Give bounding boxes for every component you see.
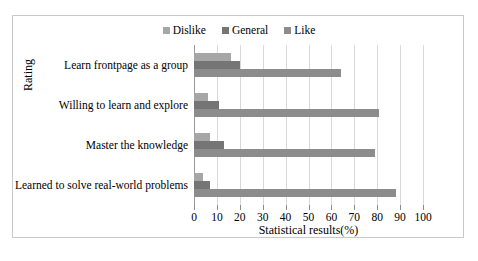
legend-item-dislike[interactable]: Dislike: [163, 25, 206, 37]
x-tick-label: 90: [394, 210, 406, 224]
x-tick-label: 100: [414, 210, 431, 224]
bar-dislike[interactable]: [194, 93, 208, 101]
gridline: [423, 45, 424, 205]
x-tick-label: 40: [280, 210, 292, 224]
legend-item-like[interactable]: Like: [284, 25, 315, 37]
legend-label: General: [232, 25, 268, 37]
bar-dislike[interactable]: [194, 133, 210, 141]
x-tick-label: 50: [303, 210, 315, 224]
legend-label: Dislike: [173, 25, 206, 37]
bar-like[interactable]: [194, 69, 341, 77]
y-axis-title: Rating: [21, 59, 36, 91]
chart-frame: DislikeGeneralLike 010203040506070809010…: [12, 15, 464, 238]
y-tick-label: Learned to solve real-world problems: [15, 179, 188, 192]
legend-swatch-icon: [163, 27, 170, 34]
x-tick-label: 0: [191, 210, 197, 224]
bar-like[interactable]: [194, 189, 396, 197]
bar-group: [194, 85, 423, 125]
y-axis-tick-labels: Learn frontpage as a groupWilling to lea…: [13, 45, 191, 205]
bar-like[interactable]: [194, 109, 379, 117]
x-tick-label: 30: [257, 210, 269, 224]
x-axis-title: Statistical results(%): [194, 223, 423, 238]
legend-swatch-icon: [222, 27, 229, 34]
x-tick-label: 80: [371, 210, 383, 224]
legend-item-general[interactable]: General: [222, 25, 268, 37]
x-tick-label: 70: [349, 210, 361, 224]
x-tick-label: 10: [211, 210, 223, 224]
plot-area: [194, 45, 423, 205]
legend-swatch-icon: [284, 27, 291, 34]
bar-general[interactable]: [194, 61, 240, 69]
bar-general[interactable]: [194, 181, 210, 189]
bar-general[interactable]: [194, 101, 219, 109]
chart-legend: DislikeGeneralLike: [13, 25, 465, 37]
bar-dislike[interactable]: [194, 173, 203, 181]
chart-figure: DislikeGeneralLike 010203040506070809010…: [0, 0, 478, 261]
legend-label: Like: [294, 25, 315, 37]
y-tick-label: Willing to learn and explore: [59, 99, 188, 112]
x-tick-label: 60: [326, 210, 338, 224]
y-tick-label: Learn frontpage as a group: [64, 59, 188, 72]
bar-group: [194, 45, 423, 85]
bar-group: [194, 165, 423, 205]
bar-group: [194, 125, 423, 165]
bar-like[interactable]: [194, 149, 375, 157]
bar-dislike[interactable]: [194, 53, 231, 61]
y-tick-label: Master the knowledge: [86, 139, 188, 152]
x-tick-label: 20: [234, 210, 246, 224]
bar-general[interactable]: [194, 141, 224, 149]
